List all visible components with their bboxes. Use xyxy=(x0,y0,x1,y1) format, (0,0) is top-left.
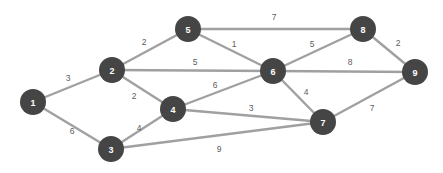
node-circle[interactable] xyxy=(310,109,336,135)
graph-node-8[interactable]: 8 xyxy=(350,16,376,42)
node-circle[interactable] xyxy=(260,58,286,84)
graph-node-4[interactable]: 4 xyxy=(160,96,186,122)
edge-weight-label: 7 xyxy=(272,12,277,22)
edge-weight-label: 8 xyxy=(348,57,353,67)
node-circle[interactable] xyxy=(99,57,125,83)
graph-edge xyxy=(173,109,323,122)
graph-edge xyxy=(188,29,273,71)
node-circle[interactable] xyxy=(350,16,376,42)
graph-node-5[interactable]: 5 xyxy=(175,16,201,42)
edge-weight-label: 1 xyxy=(232,39,237,49)
graph-edge xyxy=(273,29,363,71)
edge-weight-label: 6 xyxy=(213,80,218,90)
node-circle[interactable] xyxy=(20,89,46,115)
graph-canvas: 3625249631758472 123456789 xyxy=(0,0,443,173)
node-circle[interactable] xyxy=(402,59,428,85)
graph-diagram: 3625249631758472 123456789 xyxy=(0,0,443,173)
graph-node-6[interactable]: 6 xyxy=(260,58,286,84)
edge-weight-label: 3 xyxy=(249,103,254,113)
graph-node-1[interactable]: 1 xyxy=(20,89,46,115)
edge-weight-label: 3 xyxy=(66,73,71,83)
graph-edge xyxy=(323,72,415,122)
node-circle[interactable] xyxy=(98,136,124,162)
edge-weight-label: 4 xyxy=(304,87,309,97)
graph-node-9[interactable]: 9 xyxy=(402,59,428,85)
graph-edge xyxy=(112,70,273,71)
edge-weight-label: 7 xyxy=(370,103,375,113)
edge-weight-label: 9 xyxy=(217,144,222,154)
edge-weight-label: 5 xyxy=(193,57,198,67)
graph-node-2[interactable]: 2 xyxy=(99,57,125,83)
graph-edge xyxy=(111,122,323,149)
edge-weight-label: 2 xyxy=(142,37,147,47)
graph-node-7[interactable]: 7 xyxy=(310,109,336,135)
node-circle[interactable] xyxy=(160,96,186,122)
graph-node-3[interactable]: 3 xyxy=(98,136,124,162)
graph-edge xyxy=(273,71,415,72)
edges-layer xyxy=(33,29,415,149)
node-circle[interactable] xyxy=(175,16,201,42)
graph-edge xyxy=(173,71,273,109)
edge-weight-label: 5 xyxy=(310,39,315,49)
graph-edge xyxy=(33,102,111,149)
edge-weight-label: 2 xyxy=(132,91,137,101)
edge-weight-label: 2 xyxy=(396,38,401,48)
